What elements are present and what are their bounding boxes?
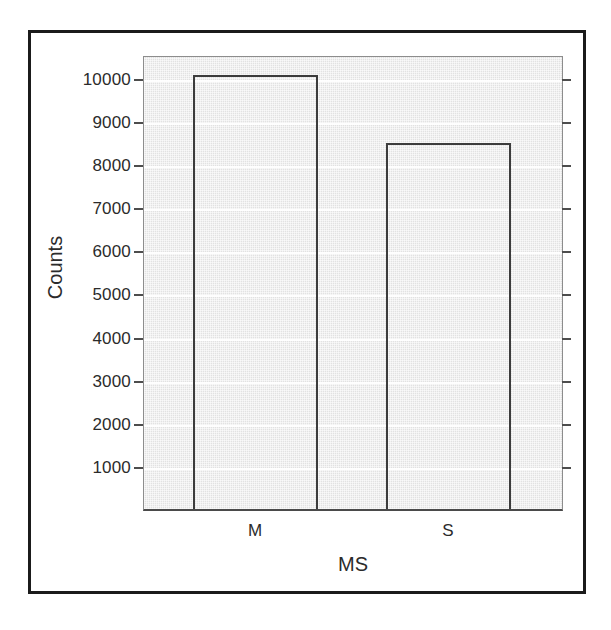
bar-M — [193, 75, 318, 509]
ytick-mark-7000 — [134, 208, 143, 210]
ytick-mark-right-2000 — [562, 424, 571, 426]
plot-area — [143, 56, 563, 511]
ytick-mark-2000 — [134, 424, 143, 426]
ytick-mark-right-6000 — [562, 251, 571, 253]
ytick-label-10000: 10000 — [83, 70, 131, 90]
ytick-label-4000: 4000 — [92, 329, 131, 349]
ytick-label-9000: 9000 — [92, 113, 131, 133]
ytick-label-3000: 3000 — [92, 372, 131, 392]
ytick-label-2000: 2000 — [92, 415, 131, 435]
ytick-mark-right-8000 — [562, 165, 571, 167]
bar-chart-figure: 10000 9000 8000 7000 6000 5000 4000 3000… — [0, 0, 611, 630]
x-axis-title: MS — [338, 553, 368, 576]
ytick-mark-right-1000 — [562, 467, 571, 469]
ytick-mark-6000 — [134, 251, 143, 253]
y-axis-title: Counts — [44, 208, 67, 328]
ytick-mark-right-7000 — [562, 208, 571, 210]
ytick-label-8000: 8000 — [92, 156, 131, 176]
ytick-mark-8000 — [134, 165, 143, 167]
ytick-mark-right-5000 — [562, 294, 571, 296]
ytick-mark-3000 — [134, 381, 143, 383]
bar-S — [386, 143, 511, 509]
ytick-label-1000: 1000 — [92, 458, 131, 478]
ytick-mark-right-9000 — [562, 122, 571, 124]
ytick-mark-right-4000 — [562, 338, 571, 340]
ytick-mark-9000 — [134, 122, 143, 124]
ytick-mark-4000 — [134, 338, 143, 340]
ytick-mark-right-3000 — [562, 381, 571, 383]
ytick-mark-5000 — [134, 294, 143, 296]
xtick-label-S: S — [442, 521, 453, 541]
ytick-label-7000: 7000 — [92, 199, 131, 219]
ytick-label-5000: 5000 — [92, 285, 131, 305]
ytick-mark-10000 — [134, 79, 143, 81]
xtick-label-M: M — [248, 521, 262, 541]
ytick-mark-1000 — [134, 467, 143, 469]
ytick-mark-right-10000 — [562, 79, 571, 81]
ytick-label-6000: 6000 — [92, 242, 131, 262]
